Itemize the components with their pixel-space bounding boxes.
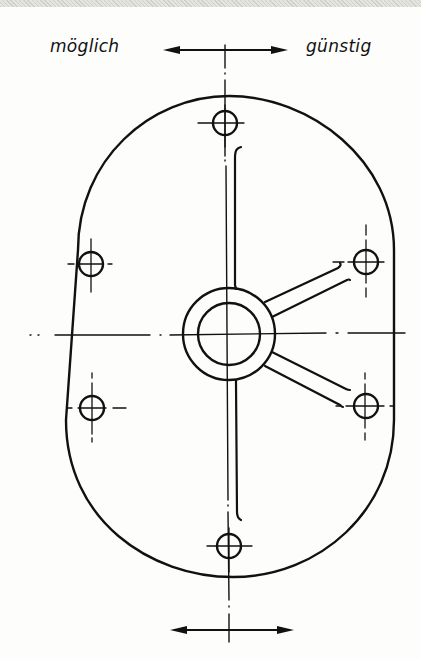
hole-top <box>198 105 244 147</box>
bottom-direction-arrow <box>170 626 294 634</box>
rib-vertical-upper <box>235 147 241 289</box>
hole-upper-right <box>333 225 384 297</box>
rib-diagonal-upper <box>265 263 350 317</box>
horizontal-centerline <box>30 333 405 335</box>
rib-vertical-lower <box>236 380 241 520</box>
technical-drawing <box>0 0 421 660</box>
housing-outline <box>66 96 394 577</box>
rib-diagonal-lower <box>265 352 350 407</box>
hole-lower-right <box>336 373 394 440</box>
hole-bottom <box>207 528 252 572</box>
hole-lower-left <box>68 373 126 442</box>
